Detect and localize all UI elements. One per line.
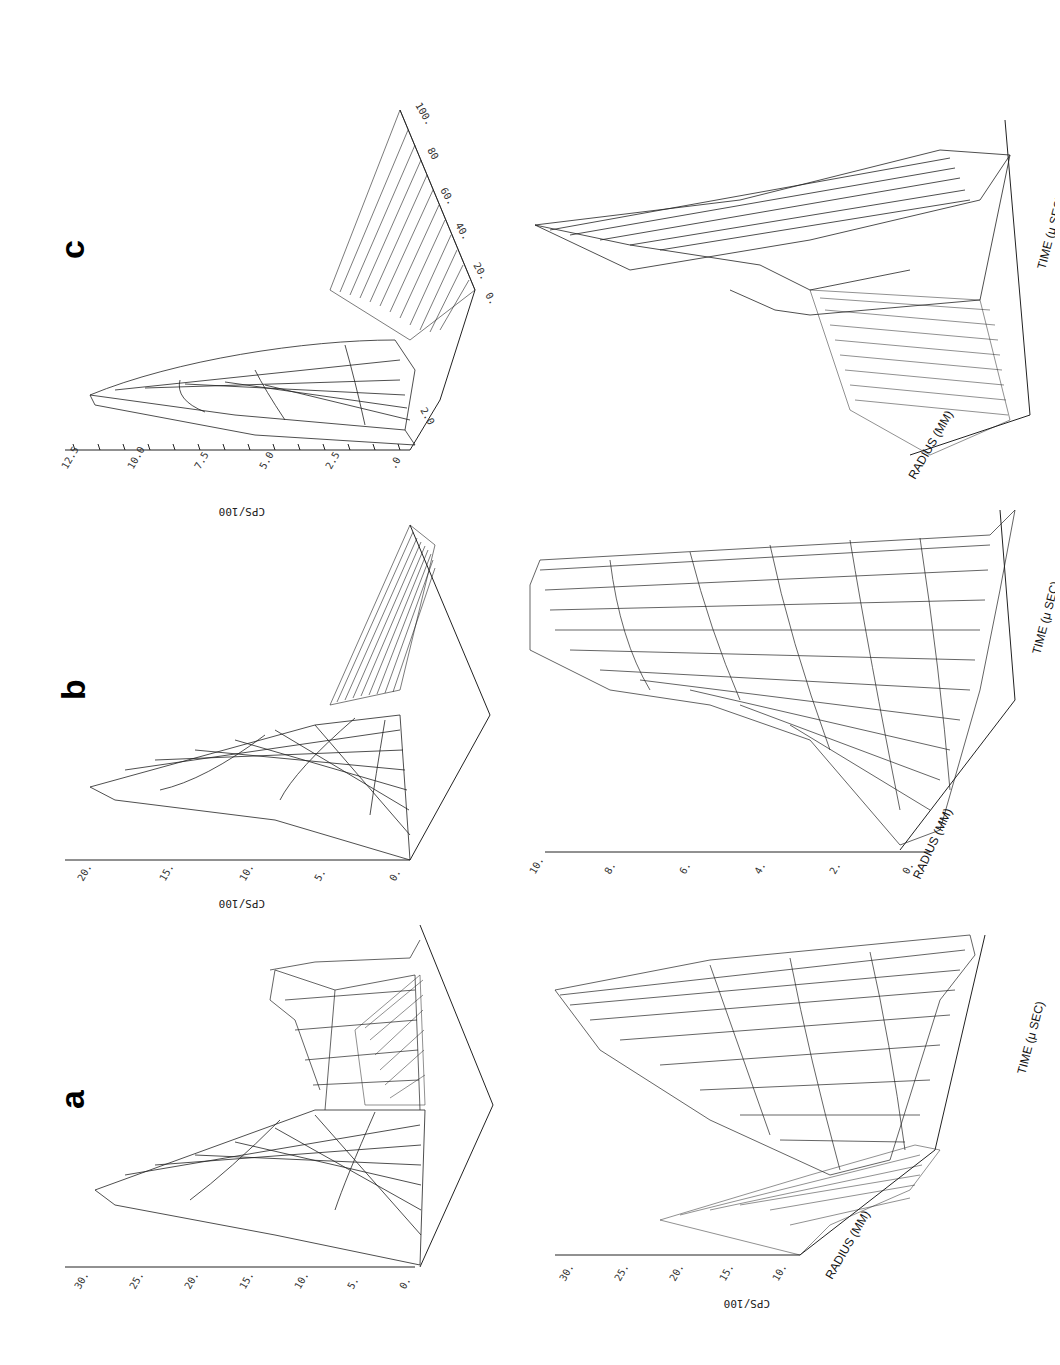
surface-plot-b-rear: 10. 8. 6. 4. 2. 0. CPS/100 bbox=[510, 490, 1055, 890]
panel-c-front-view: 12.5 10.0 7.5 5.0 2.5 .0 bbox=[55, 40, 505, 490]
time-tick: 80 bbox=[425, 146, 441, 162]
radius-axis-title: RADIUS (MM) bbox=[910, 806, 955, 881]
figure-page: c 12.5 10.0 7.5 5.0 2.5 .0 bbox=[0, 0, 1060, 1365]
panel-c-rear-view: CPS/100 RADIUS (MM) TIME (μ SEC bbox=[510, 40, 1055, 490]
z-tick: 10. bbox=[770, 1262, 789, 1283]
panel-a-rear-view: 30. 25. 20. 15. 10. CPS/100 bbox=[510, 880, 1055, 1340]
panel-a-front-view: 30. 25. 20. 15. 10. 5. 0. CPS/100 bbox=[55, 880, 505, 1340]
z-tick: 7.5 bbox=[192, 450, 211, 471]
time-axis-title: TIME (μ SEC) bbox=[1034, 195, 1055, 271]
panel-c: c 12.5 10.0 7.5 5.0 2.5 .0 bbox=[55, 40, 1055, 490]
surface-plot-c-rear: CPS/100 RADIUS (MM) TIME (μ SEC bbox=[510, 40, 1055, 490]
z-tick: 15. bbox=[717, 1262, 736, 1283]
z-tick: 20. bbox=[667, 1262, 686, 1283]
z-tick: 20. bbox=[182, 1270, 201, 1291]
surface-plot-b-front: 20. 15. 10. 5. 0. CPS/100 bbox=[55, 490, 505, 890]
radius-tick: 2.0 bbox=[418, 406, 437, 427]
time-tick: 60. bbox=[438, 186, 457, 207]
time-axis-title: TIME (μ SEC) bbox=[1014, 1000, 1047, 1076]
z-tick: 15. bbox=[237, 1270, 256, 1291]
z-tick: 8. bbox=[602, 860, 618, 876]
z-tick: .0 bbox=[387, 455, 403, 471]
z-tick: 6. bbox=[677, 860, 693, 876]
z-tick: 30. bbox=[72, 1270, 91, 1291]
z-tick: 0. bbox=[397, 1275, 413, 1291]
radius-axis-title: RADIUS (MM) bbox=[822, 1208, 872, 1281]
panel-b: b 20. 15. 10. 5. 0. CPS/100 bbox=[55, 490, 1055, 890]
surface-plot-c-front: 12.5 10.0 7.5 5.0 2.5 .0 bbox=[55, 40, 505, 490]
z-tick: 10.0 bbox=[125, 445, 147, 471]
z-tick: 25. bbox=[612, 1262, 631, 1283]
surface-plot-a-front: 30. 25. 20. 15. 10. 5. 0. CPS/100 bbox=[55, 880, 505, 1340]
z-tick: 10. bbox=[527, 855, 546, 876]
time-axis-title: TIME (μ SEC) bbox=[1029, 580, 1055, 656]
time-tick: 100. bbox=[413, 101, 435, 127]
time-tick: 40. bbox=[453, 221, 472, 242]
z-tick: 5.0 bbox=[257, 450, 276, 471]
z-tick: 4. bbox=[752, 860, 768, 876]
radius-axis-title: RADIUS (MM) bbox=[905, 408, 955, 481]
z-axis-title: CPS/100 bbox=[219, 897, 265, 910]
z-tick: 2.5 bbox=[323, 450, 342, 471]
z-tick: 5. bbox=[345, 1275, 361, 1291]
surface-plot-a-rear: 30. 25. 20. 15. 10. CPS/100 bbox=[510, 880, 1055, 1340]
panel-a: a 30. 25. 20. 15. 10. 5. 0. CPS/100 bbox=[55, 880, 1055, 1340]
panel-b-rear-view: 10. 8. 6. 4. 2. 0. CPS/100 bbox=[510, 490, 1055, 890]
panel-b-front-view: 20. 15. 10. 5. 0. CPS/100 bbox=[55, 490, 505, 890]
z-tick: 25. bbox=[127, 1270, 146, 1291]
z-axis-title: CPS/100 bbox=[219, 505, 265, 518]
z-axis-title: CPS/100 bbox=[724, 1297, 770, 1310]
z-tick: 10. bbox=[292, 1270, 311, 1291]
time-tick: 0. bbox=[483, 291, 499, 307]
z-tick: 30. bbox=[557, 1262, 576, 1283]
time-tick: 20. bbox=[471, 261, 490, 282]
z-tick: 12.5 bbox=[59, 445, 81, 471]
z-tick: 2. bbox=[827, 860, 843, 876]
